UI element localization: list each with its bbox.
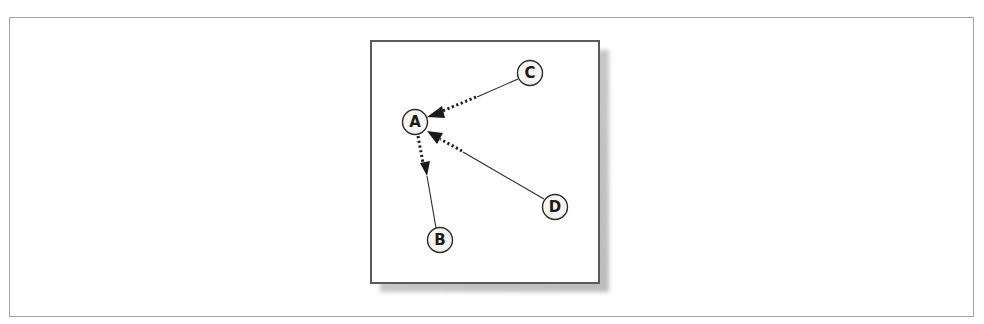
node-b-label: B: [434, 231, 445, 249]
arrowhead-icon: [420, 161, 430, 176]
arrowhead-icon: [427, 106, 445, 118]
edge-c-a-dotted-segment: [440, 97, 476, 112]
edge-d-a-solid-segment: [463, 152, 544, 199]
node-d-label: D: [549, 198, 561, 216]
node-d: D: [543, 195, 568, 220]
edge-c-a-solid-segment: [477, 79, 518, 97]
node-a-label: A: [409, 113, 421, 131]
edge-a-b-solid-segment: [427, 176, 436, 228]
node-b: B: [428, 228, 453, 253]
graph-canvas: A B C D: [0, 0, 984, 324]
edge-d-a-dotted-segment: [440, 139, 462, 151]
node-c-label: C: [524, 64, 535, 82]
edge-d-to-a: [427, 131, 544, 199]
edge-a-to-b: [418, 136, 436, 228]
node-a: A: [403, 110, 428, 135]
node-c: C: [518, 61, 543, 86]
edge-a-b-dotted-segment: [418, 136, 423, 163]
arrowhead-icon: [427, 131, 443, 144]
edge-c-to-a: [427, 79, 518, 118]
